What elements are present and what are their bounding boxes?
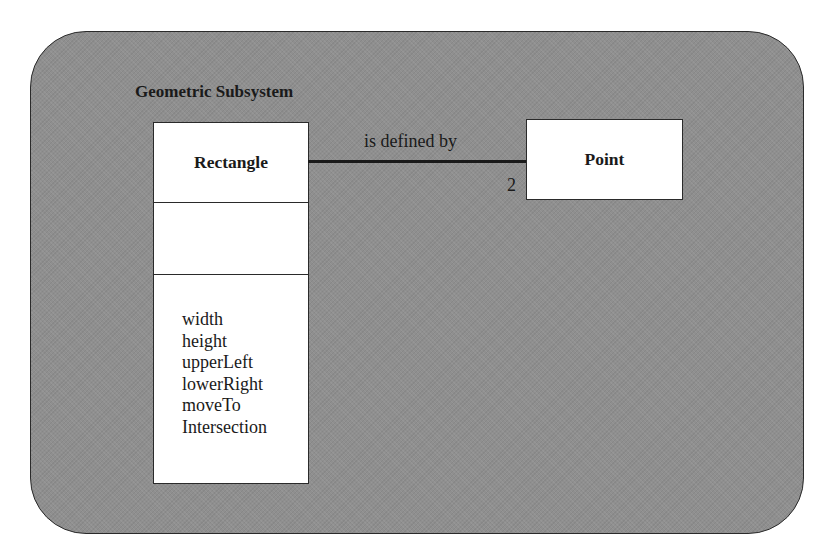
class-name: Point [585, 149, 625, 170]
member-item: height [182, 331, 308, 353]
class-rectangle[interactable]: Rectangle width height upperLeft lowerRi… [153, 122, 309, 484]
operations-compartment: width height upperLeft lowerRight moveTo… [154, 275, 308, 483]
class-point[interactable]: Point [526, 119, 683, 200]
association-line[interactable] [308, 160, 527, 163]
class-name: Rectangle [194, 152, 268, 173]
subsystem-package [30, 31, 804, 534]
attributes-compartment [154, 203, 308, 275]
association-label: is defined by [364, 131, 457, 152]
multiplicity-label: 2 [507, 175, 516, 196]
member-item: width [182, 309, 308, 331]
member-item: moveTo [182, 395, 308, 417]
member-item: Intersection [182, 417, 308, 439]
member-item: upperLeft [182, 352, 308, 374]
member-item: lowerRight [182, 374, 308, 396]
package-title: Geometric Subsystem [135, 82, 293, 102]
class-name-compartment: Rectangle [154, 123, 308, 203]
